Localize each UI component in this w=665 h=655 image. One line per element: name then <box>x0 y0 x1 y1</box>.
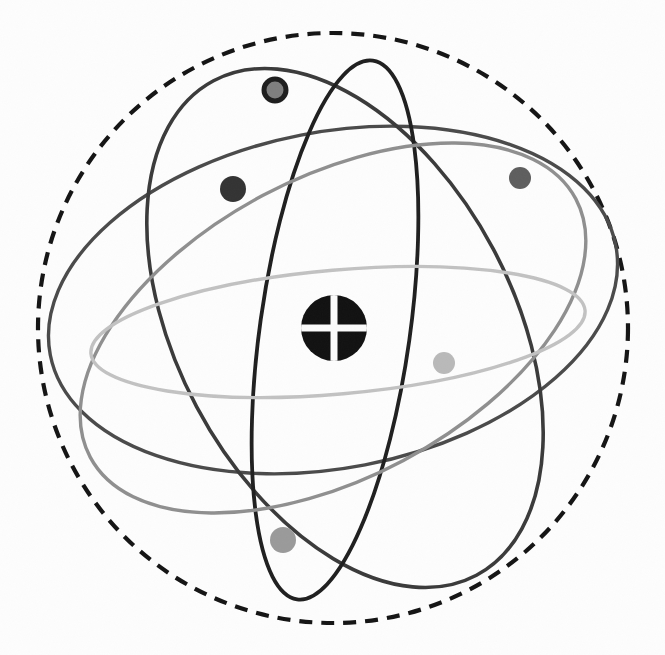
electron-right <box>509 167 531 189</box>
atom-diagram-svg <box>0 0 665 655</box>
electron-lower-left <box>270 527 296 553</box>
atom-diagram-canvas <box>0 0 665 655</box>
electron-group <box>220 79 531 553</box>
nucleus-group <box>301 295 367 361</box>
electron-right-inner <box>433 352 455 374</box>
electron-top-ring <box>264 79 286 101</box>
electron-upper-left <box>220 176 246 202</box>
